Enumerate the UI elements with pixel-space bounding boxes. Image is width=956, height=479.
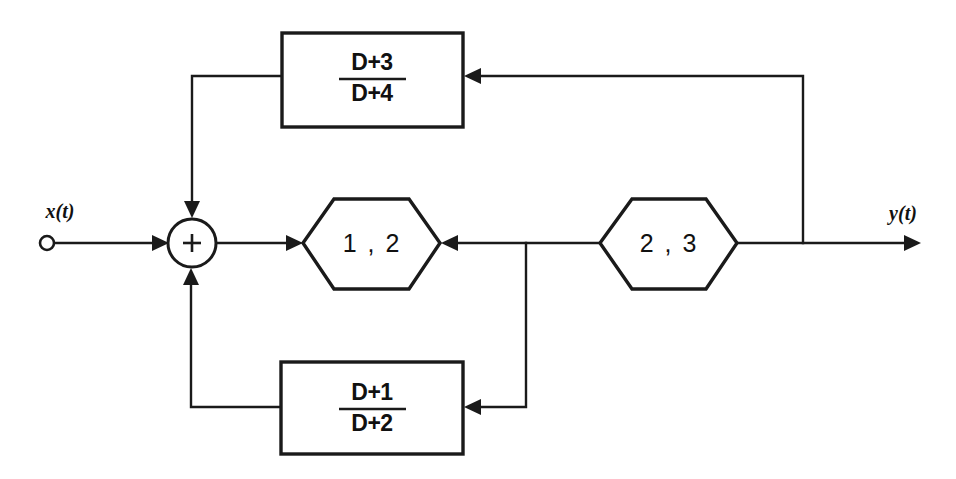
wire-bottom-feedback-tap: [464, 243, 526, 415]
wire-summer-to-hex-left: [216, 235, 303, 251]
input-terminal: [40, 236, 54, 250]
hexagon-block-right[interactable]: 2 , 3: [600, 199, 737, 289]
transfer-block-bottom[interactable]: D+1 D+2: [281, 362, 463, 454]
diagram-svg: x(t) y(t) 1 , 2 2 , 3 D+3 D+4: [0, 0, 956, 479]
wire-hex-right-to-output: [737, 235, 921, 251]
summing-junction[interactable]: [168, 219, 216, 267]
input-label: x(t): [45, 200, 75, 223]
transfer-block-bottom-numerator: D+1: [351, 379, 393, 405]
wire-bottom-feedback-return: [183, 268, 281, 407]
wire-hex-right-to-hex-left: [441, 235, 600, 251]
wire-top-feedback-return: [184, 76, 282, 218]
wire-input-to-summer: [53, 235, 169, 251]
transfer-block-top-numerator: D+3: [351, 49, 392, 75]
block-diagram-canvas: x(t) y(t) 1 , 2 2 , 3 D+3 D+4: [0, 0, 956, 479]
hexagon-left-label: 1 , 2: [343, 229, 402, 257]
output-label: y(t): [887, 202, 917, 225]
transfer-block-top-denominator: D+4: [351, 80, 393, 106]
transfer-block-top[interactable]: D+3 D+4: [282, 33, 463, 127]
hexagon-right-label: 2 , 3: [640, 229, 699, 257]
hexagon-block-left[interactable]: 1 , 2: [303, 199, 440, 289]
transfer-block-bottom-denominator: D+2: [351, 410, 392, 436]
